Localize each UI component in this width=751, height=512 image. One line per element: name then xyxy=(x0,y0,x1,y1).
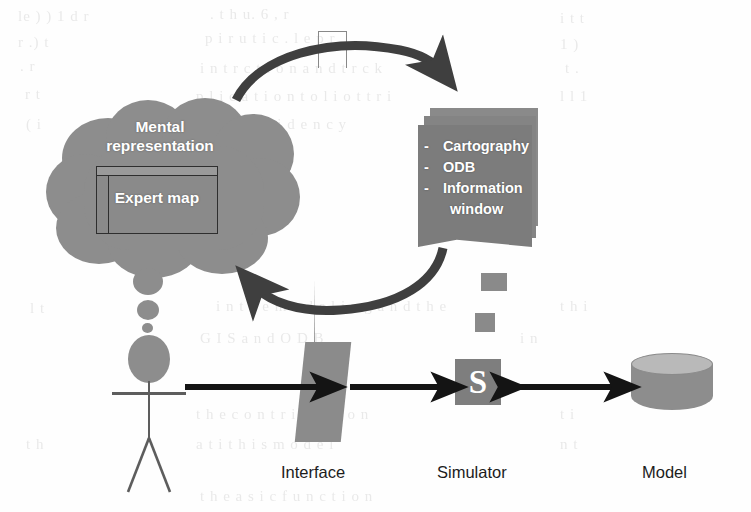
window-titlebar xyxy=(97,167,217,176)
card-bullet-1: - xyxy=(424,159,429,175)
thought-bubble-large xyxy=(133,268,163,295)
card-list-item-0: - Cartography xyxy=(424,136,544,157)
card-list-item-3: window xyxy=(424,199,544,220)
expert-map-label: Expert map xyxy=(97,189,217,207)
card-label-0: Cartography xyxy=(443,138,529,154)
small-square-upper xyxy=(481,273,507,291)
cloud-label: Mental representation xyxy=(60,117,260,155)
diagram-figure: Mental representation Expert map - Carto… xyxy=(0,0,751,512)
card-label-3: window xyxy=(450,201,503,217)
stick-figure-legs xyxy=(128,438,170,492)
expert-map-window[interactable]: Expert map xyxy=(96,166,218,234)
caption-model: Model xyxy=(642,463,687,482)
interface-parallelogram[interactable] xyxy=(295,342,352,442)
cloud-label-line2: representation xyxy=(106,137,214,154)
simulator-box[interactable]: S xyxy=(455,359,501,405)
card-label-1: ODB xyxy=(443,159,475,175)
stick-figure-head xyxy=(128,335,170,383)
thought-bubble-medium xyxy=(137,300,159,320)
simulator-letter: S xyxy=(455,362,501,402)
cloud-label-line1: Mental xyxy=(135,118,184,135)
model-cylinder-top xyxy=(631,353,713,375)
stick-figure-arms xyxy=(112,392,186,395)
thought-bubble-small xyxy=(142,323,153,333)
card-list-item-1: - ODB xyxy=(424,157,544,178)
card-list-item-2: - Information xyxy=(424,178,544,199)
card-list: - Cartography - ODB - Information window xyxy=(424,136,544,220)
card-bullet-0: - xyxy=(424,138,429,154)
caption-interface: Interface xyxy=(281,463,345,482)
figure-page: le ) ) 1 d r. t h u. 6 , ri t tr .) tp i… xyxy=(0,0,751,512)
card-bullet-2: - xyxy=(424,180,429,196)
card-label-2: Information xyxy=(443,180,523,196)
small-square-lower xyxy=(475,313,495,332)
interface-vertical-band xyxy=(314,60,352,353)
caption-simulator: Simulator xyxy=(437,463,507,482)
stick-figure-torso xyxy=(148,381,150,438)
